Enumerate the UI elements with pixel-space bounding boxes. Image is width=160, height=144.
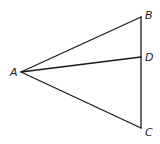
segment-ab [21,17,141,72]
triangle-diagram: A B D C [0,0,160,144]
segment-ac [21,72,141,128]
vertex-label-d: D [145,51,153,64]
vertex-label-c: C [145,126,153,139]
vertex-label-b: B [145,9,153,22]
vertex-label-a: A [9,66,18,79]
segment-ad [21,57,141,72]
